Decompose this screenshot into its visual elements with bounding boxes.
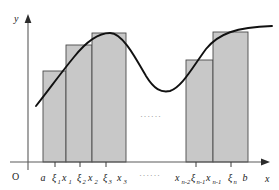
tick-label: b (243, 172, 248, 183)
ellipsis-axis: ······ (139, 170, 161, 180)
bars-group (43, 32, 248, 162)
x-axis-ticks (55, 162, 231, 167)
tick-label-subscript: 1 (69, 178, 72, 185)
tick-label-base: ξ (228, 172, 233, 184)
tick-label: x n-2 (174, 172, 191, 185)
tick-label-subscript: 2 (83, 178, 87, 185)
tick-label: ξ n (228, 172, 238, 185)
riemann-sum-svg: O y x ······ ······ a ξ 1 x 1 ξ 2 (0, 0, 279, 190)
bar-rect (43, 71, 66, 162)
tick-label-base: ξ (52, 172, 57, 184)
tick-label: a (41, 172, 46, 183)
tick-label-subscript: n-1 (213, 178, 222, 185)
tick-label-base: ξ (103, 172, 108, 184)
tick-label: ξ n-1 (191, 172, 205, 185)
bar-rect (213, 32, 248, 162)
tick-label: ξ 1 (52, 172, 61, 185)
y-axis (25, 14, 32, 170)
tick-label-subscript: 2 (95, 178, 99, 185)
y-axis-label: y (13, 13, 19, 24)
bar-rect (92, 33, 126, 162)
bar-rect (186, 60, 213, 162)
origin-label: O (12, 171, 19, 182)
tick-label: x 3 (116, 172, 128, 185)
tick-label: x 1 (61, 172, 72, 185)
tick-label-base: ξ (191, 172, 196, 184)
x-axis-label: x (264, 173, 270, 184)
tick-label-base: x (205, 172, 211, 183)
riemann-sum-figure: O y x ······ ······ a ξ 1 x 1 ξ 2 (0, 0, 279, 190)
tick-label: ξ 2 (77, 172, 87, 185)
ellipsis-middle: ······ (140, 111, 162, 121)
tick-label-base: b (243, 172, 248, 183)
tick-label-subscript: n-1 (197, 178, 206, 185)
tick-label-base: x (61, 172, 67, 183)
tick-label-subscript: n (234, 178, 238, 185)
tick-label-base: x (87, 172, 93, 183)
tick-label: x n-1 (205, 172, 221, 185)
tick-label-base: a (41, 172, 46, 183)
tick-label-base: x (116, 172, 122, 183)
tick-label-subscript: 1 (58, 178, 61, 185)
tick-label: ξ 3 (103, 172, 113, 185)
tick-label-base: ξ (77, 172, 82, 184)
tick-label-base: x (174, 172, 180, 183)
tick-label-subscript: 3 (108, 178, 113, 185)
tick-label-subscript: 3 (123, 178, 128, 185)
tick-label-subscript: n-2 (182, 178, 191, 185)
tick-label: x 2 (87, 172, 99, 185)
